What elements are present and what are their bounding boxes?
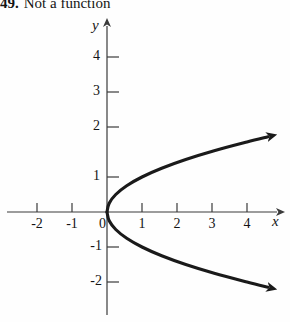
x-tick-label-0: 0 — [92, 216, 106, 232]
x-tick-label-2: 2 — [167, 216, 187, 232]
y-tick-label-neg2: -2 — [72, 273, 102, 289]
y-tick-label-neg1: -1 — [72, 238, 102, 254]
graph-canvas — [0, 0, 290, 322]
parabola-upper-branch — [107, 137, 268, 212]
figure-panel: 49.Not a function — [0, 0, 290, 322]
x-axis-label: x — [272, 213, 279, 230]
y-axis-ticks — [107, 57, 119, 282]
y-tick-label-3: 3 — [80, 83, 100, 99]
curve-helper-upper — [107, 128, 247, 212]
x-axis-ticks — [37, 203, 247, 212]
x-tick-label-4: 4 — [237, 216, 257, 232]
x-tick-label-3: 3 — [202, 216, 222, 232]
x-tick-label-neg1: -1 — [57, 216, 87, 232]
y-tick-label-1: 1 — [80, 168, 100, 184]
x-tick-label-1: 1 — [132, 216, 152, 232]
y-tick-label-2: 2 — [80, 118, 100, 134]
y-tick-label-4: 4 — [80, 48, 100, 64]
y-axis-label: y — [92, 17, 99, 34]
x-tick-label-neg2: -2 — [22, 216, 52, 232]
